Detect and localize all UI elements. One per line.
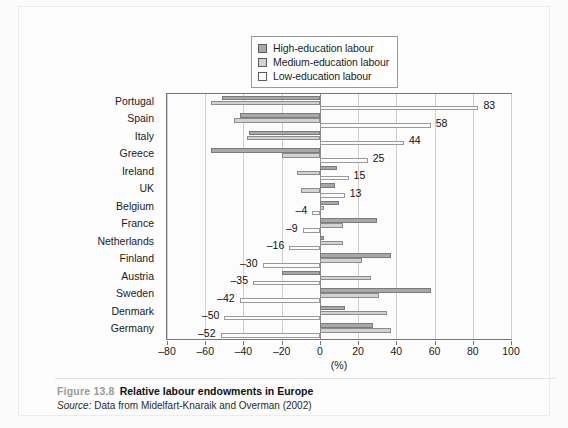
bar-high (222, 96, 319, 101)
bar-low (224, 316, 320, 321)
bar-value-label: 25 (373, 153, 385, 163)
bar-low (320, 158, 368, 163)
bar-medium (301, 188, 320, 193)
y-axis-label-finland: Finland (120, 253, 154, 264)
gridline-100 (511, 94, 512, 339)
plot-area: 835844251513–4–9–16–30–35–42–50–52 (166, 93, 512, 340)
x-tick-label: –20 (273, 345, 291, 357)
bar-high (320, 201, 339, 206)
legend-item-0: High-education labour (258, 41, 389, 55)
x-tick-label: 60 (429, 345, 441, 357)
bar-value-label: –4 (296, 205, 308, 215)
bar-medium (297, 171, 320, 176)
x-tick-label: 100 (502, 345, 520, 357)
bar-low (240, 298, 320, 303)
bar-medium (320, 328, 391, 333)
y-axis-label-austria: Austria (121, 271, 154, 282)
bar-value-label: –16 (267, 240, 285, 250)
legend-item-label: Low-education labour (273, 70, 371, 82)
caption-source-line: Source: Data from Midelfart-Knaraik and … (57, 399, 537, 413)
bar-value-label: –42 (217, 293, 235, 303)
bar-row: 44 (167, 129, 511, 147)
x-axis-title: (%) (166, 359, 512, 371)
bar-medium (320, 276, 372, 281)
legend-swatch-icon (258, 58, 267, 67)
bar-high (320, 253, 391, 258)
bar-row: 25 (167, 147, 511, 165)
bar-low (312, 211, 320, 216)
bar-medium (320, 223, 343, 228)
y-axis-label-ireland: Ireland (122, 166, 154, 177)
bar-high (320, 166, 337, 171)
x-tick-label: –40 (235, 345, 253, 357)
bar-row: –4 (167, 199, 511, 217)
bar-value-label: –30 (240, 258, 258, 268)
bar-low (320, 123, 431, 128)
source-text: Data from Midelfart-Knaraik and Overman … (94, 400, 311, 411)
x-tick-label: –60 (196, 345, 214, 357)
y-axis-label-belgium: Belgium (116, 201, 154, 212)
y-axis-label-germany: Germany (111, 323, 154, 334)
legend-swatch-icon (258, 44, 267, 53)
figure-caption: Figure 13.8Relative labour endowments in… (57, 384, 537, 413)
x-tick-label: 40 (390, 345, 402, 357)
x-tick-label: 80 (467, 345, 479, 357)
caption-divider (55, 378, 555, 379)
y-axis-label-sweden: Sweden (116, 288, 154, 299)
y-axis-label-netherlands: Netherlands (97, 236, 154, 247)
bar-high (282, 271, 320, 276)
bar-row: –52 (167, 322, 511, 340)
legend-item-2: Low-education labour (258, 69, 389, 83)
bar-value-label: 13 (350, 188, 362, 198)
bar-value-label: 15 (354, 170, 366, 180)
bar-low (263, 263, 320, 268)
x-tick-label: 20 (352, 345, 364, 357)
caption-title-line: Figure 13.8Relative labour endowments in… (57, 384, 537, 398)
bar-low (320, 141, 404, 146)
bar-value-label: 44 (409, 135, 421, 145)
bar-medium (320, 258, 362, 263)
bar-low (253, 281, 320, 286)
y-axis-label-greece: Greece (120, 148, 154, 159)
bar-low (320, 106, 479, 111)
bar-medium (282, 153, 320, 158)
bar-medium (320, 311, 387, 316)
y-axis-label-france: France (121, 218, 154, 229)
bar-medium (320, 293, 379, 298)
bar-low (320, 176, 349, 181)
bar-row: –35 (167, 269, 511, 287)
bar-high (320, 288, 431, 293)
legend-item-label: Medium-education labour (273, 56, 389, 68)
bar-high (249, 131, 320, 136)
bar-high (320, 236, 324, 241)
bar-low (221, 333, 320, 338)
bar-rows: 835844251513–4–9–16–30–35–42–50–52 (167, 94, 511, 339)
bar-value-label: –35 (230, 275, 248, 285)
y-axis-label-uk: UK (139, 183, 154, 194)
figure-container: High-education labourMedium-education la… (18, 6, 550, 416)
legend-swatch-icon (258, 72, 267, 81)
bar-medium (234, 118, 320, 123)
legend-item-label: High-education labour (273, 42, 374, 54)
bar-low (303, 228, 320, 233)
figure-page: High-education labourMedium-education la… (0, 0, 568, 428)
chart-legend: High-education labourMedium-education la… (251, 36, 398, 88)
bar-row: –30 (167, 252, 511, 270)
bar-value-label: –52 (198, 328, 216, 338)
figure-title: Relative labour endowments in Europe (120, 385, 314, 397)
source-label: Source: (57, 400, 91, 411)
bar-value-label: 83 (484, 100, 496, 110)
bar-row: –50 (167, 304, 511, 322)
bar-high (211, 148, 320, 153)
bar-low (289, 246, 320, 251)
bar-medium (320, 206, 324, 211)
bar-row: –42 (167, 287, 511, 305)
bar-row: 58 (167, 112, 511, 130)
bar-medium (247, 136, 320, 141)
y-axis-label-spain: Spain (127, 113, 154, 124)
y-axis-label-denmark: Denmark (111, 306, 154, 317)
x-axis-ticks: –80–60–40–20020406080100 (166, 341, 512, 357)
bar-high (320, 306, 345, 311)
bar-row: 13 (167, 182, 511, 200)
x-tick-label: 0 (317, 345, 323, 357)
